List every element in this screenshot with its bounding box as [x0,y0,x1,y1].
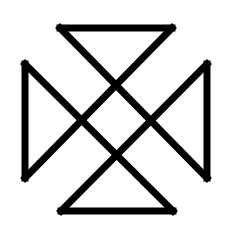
cross-triangles-icon [0,0,227,234]
diagonal-right-to-bottom-left [61,64,207,211]
diagonal-left-to-bottom-right [25,64,173,211]
symbol-canvas [0,0,227,234]
diagonal-top-right-to-left [25,28,172,178]
diagonal-top-left-to-right [60,28,207,178]
